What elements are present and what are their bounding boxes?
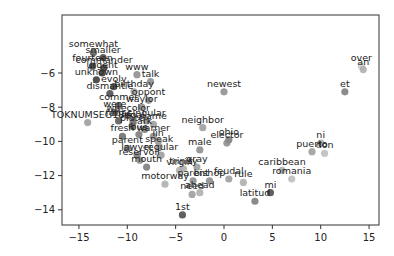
data-point: [240, 179, 247, 186]
y-tick-label: −6: [40, 68, 55, 79]
x-tick-label: 15: [363, 232, 376, 243]
data-point-label: don: [316, 139, 334, 150]
data-point: [321, 150, 328, 157]
y-tick-label: −10: [34, 136, 55, 147]
scatter-chart: somewhatsmallerfourteencommanderurgentun…: [0, 0, 394, 256]
data-point: [223, 140, 230, 147]
data-point: [288, 175, 295, 182]
data-point-label: trinity: [169, 155, 198, 166]
data-point: [84, 119, 91, 126]
data-point: [225, 175, 232, 182]
data-point-label: elector: [210, 129, 243, 140]
data-point-label: newest: [207, 78, 241, 89]
y-axis: −6−8−10−12−14: [34, 68, 62, 216]
x-tick-label: 5: [269, 232, 275, 243]
y-tick-label: −8: [40, 102, 55, 113]
x-tick-label: −15: [68, 232, 89, 243]
data-point-label: et: [340, 78, 350, 89]
data-point: [360, 66, 367, 73]
x-tick-label: 10: [314, 232, 327, 243]
data-point-label: male: [188, 136, 212, 147]
data-point: [308, 148, 315, 155]
data-point-label: 1st: [175, 201, 190, 212]
data-point: [251, 198, 258, 205]
data-point: [199, 124, 206, 131]
data-point-label: mouth: [131, 153, 162, 164]
data-point-label: an: [357, 56, 369, 67]
data-point-label: mi: [264, 179, 276, 190]
x-tick-label: −5: [168, 232, 183, 243]
y-tick-label: −14: [34, 204, 55, 215]
data-point: [220, 88, 227, 95]
data-point: [341, 88, 348, 95]
x-axis: −15−10−5051015: [68, 225, 375, 243]
y-tick-label: −12: [34, 170, 55, 181]
data-point: [161, 181, 168, 188]
x-tick-label: 0: [221, 232, 227, 243]
data-point-label: neighbor: [182, 114, 224, 125]
data-point-label: romania: [272, 165, 311, 176]
data-point-label: rule: [234, 168, 253, 179]
x-tick-label: −10: [117, 232, 138, 243]
data-point-labels: somewhatsmallerfourteencommanderurgentun…: [50, 38, 372, 211]
data-point-label: need: [180, 180, 204, 191]
data-point: [179, 211, 186, 218]
data-point: [188, 191, 195, 198]
